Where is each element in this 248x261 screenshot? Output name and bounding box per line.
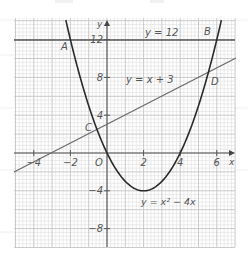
y-tick-label: 4 xyxy=(97,110,103,121)
origin-label: O xyxy=(95,157,103,168)
x-tick-label: 6 xyxy=(214,157,220,168)
y-axis-label: y xyxy=(96,19,103,29)
x-tick-label: −2 xyxy=(63,157,78,168)
graph-figure: x y O −4−22461284−4−8 y = 12 y = x + 3 y… xyxy=(0,0,248,261)
point-label-b: B xyxy=(204,26,211,37)
y-tick-label: −8 xyxy=(88,223,103,234)
top-bar-right xyxy=(150,0,164,3)
label-y-equals-12: y = 12 xyxy=(144,27,178,38)
x-axis-arrow-icon xyxy=(229,150,235,156)
y-tick-label: −4 xyxy=(88,185,103,196)
point-label-c: C xyxy=(85,122,92,133)
point-label-a: A xyxy=(60,41,68,52)
x-tick-label: 2 xyxy=(140,157,146,168)
label-y-equals-x-plus-3: y = x + 3 xyxy=(125,74,174,85)
x-axis-label: x xyxy=(228,157,235,167)
graph-canvas: x y O −4−22461284−4−8 y = 12 y = x + 3 y… xyxy=(0,0,248,261)
point-label-d: D xyxy=(211,76,219,87)
top-bar-left xyxy=(55,0,73,3)
grid-minor xyxy=(14,18,235,247)
label-parabola: y = x² − 4x xyxy=(140,196,196,207)
y-tick-label: 8 xyxy=(97,72,103,83)
